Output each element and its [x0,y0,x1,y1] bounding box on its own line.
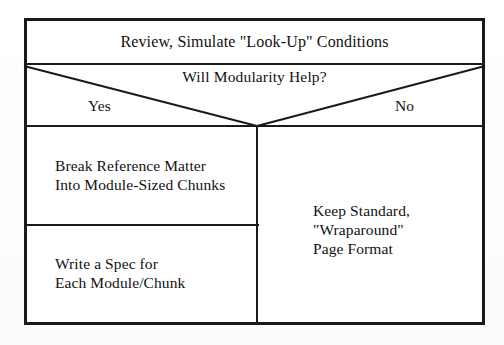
no-branch-outcome-line-3: Page Format [313,239,493,258]
no-branch-outcome-line-1: Keep Standard, [313,201,493,220]
branch-label-yes: Yes [88,96,168,115]
yes-branch-step-1-line-1: Break Reference Matter [55,156,255,175]
decision-question-label: Will Modularity Help? [27,67,482,86]
yes-branch-step-2-line-1: Write a Spec for [55,254,255,273]
flowchart-screenshot: Review, Simulate "Look-Up" Conditions Wi… [0,0,504,345]
title-box-label: Review, Simulate "Look-Up" Conditions [27,32,482,51]
yes-branch-step-2-line-2: Each Module/Chunk [55,273,255,292]
branch-label-no: No [395,96,475,115]
no-branch-outcome: Keep Standard, "Wraparound" Page Format [256,125,482,325]
yes-branch-step-1: Break Reference Matter Into Module-Sized… [27,125,256,224]
yes-branch-step-1-line-2: Into Module-Sized Chunks [55,175,255,194]
yes-branch-step-2: Write a Spec for Each Module/Chunk [27,224,256,325]
flowchart-outer-frame: Review, Simulate "Look-Up" Conditions Wi… [24,18,485,325]
no-branch-outcome-line-2: "Wraparound" [313,220,493,239]
